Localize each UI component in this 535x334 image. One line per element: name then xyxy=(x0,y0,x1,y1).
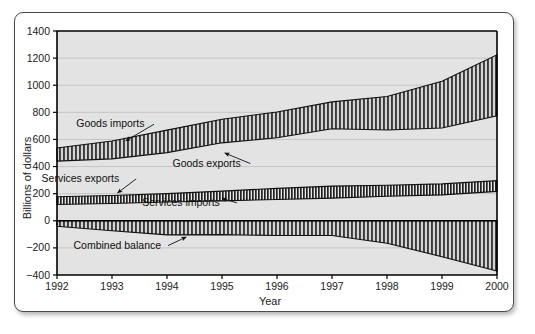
y-tick-label: 1400 xyxy=(27,25,51,37)
x-tick-label: 1998 xyxy=(375,280,399,292)
y-tick-label: 1000 xyxy=(27,79,51,91)
annotation-goods_exports: Goods exports xyxy=(173,157,241,169)
annotation-services_exports: Services exports xyxy=(42,172,120,184)
y-tick-label: −200 xyxy=(26,241,50,253)
y-tick-label: 800 xyxy=(32,106,50,118)
y-tick-label: 1200 xyxy=(27,52,51,64)
x-tick-label: 1994 xyxy=(155,280,179,292)
chart-canvas: −400−2000200400600800100012001400 199219… xyxy=(15,13,515,313)
x-axis-title: Year xyxy=(259,295,282,307)
x-tick-label: 1997 xyxy=(320,280,344,292)
x-tick-label: 1995 xyxy=(210,280,234,292)
annotation-services_imports: Services imports xyxy=(142,196,220,208)
x-tick-label: 1993 xyxy=(100,280,124,292)
x-tick-label: 1996 xyxy=(265,280,289,292)
x-tick-label: 2000 xyxy=(485,280,509,292)
y-tick-label: 200 xyxy=(32,187,50,199)
annotation-goods_imports: Goods imports xyxy=(76,117,144,129)
trade-balance-chart: −400−2000200400600800100012001400 199219… xyxy=(15,13,515,313)
y-tick-label: 0 xyxy=(44,214,50,226)
y-axis-title: Billions of dollars xyxy=(21,136,33,219)
x-tick-label: 1992 xyxy=(45,280,69,292)
x-axis-ticks: 199219931994199519961997199819992000 xyxy=(45,275,509,292)
y-tick-label: 400 xyxy=(32,160,50,172)
annotation-combined_balance: Combined balance xyxy=(74,239,162,251)
y-tick-label: −400 xyxy=(26,269,50,281)
x-tick-label: 1999 xyxy=(430,280,454,292)
y-tick-label: 600 xyxy=(32,133,50,145)
figure-frame: −400−2000200400600800100012001400 199219… xyxy=(14,12,514,312)
